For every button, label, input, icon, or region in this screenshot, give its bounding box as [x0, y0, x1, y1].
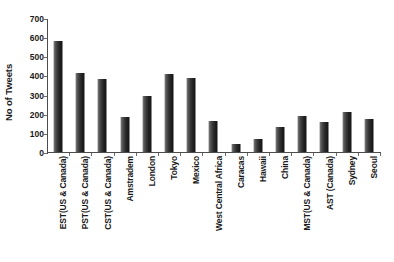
x-axis-label-text: MST(US & Canada): [302, 156, 313, 231]
bar-slot: [114, 18, 136, 152]
bar[interactable]: [276, 127, 285, 152]
bar-slot: [69, 18, 91, 152]
x-axis-label-13: AST (Canada): [314, 156, 336, 260]
bar[interactable]: [253, 139, 262, 152]
bar[interactable]: [76, 73, 85, 152]
bar-slot: [202, 18, 224, 152]
y-tick-label: 300: [16, 91, 44, 100]
clipped-caption-text: [0, 0, 394, 4]
x-axis-label-11: China: [269, 156, 291, 260]
x-axis-label-text: Caracas: [236, 156, 247, 188]
x-axis-label-text: CST(US & Canada): [103, 156, 114, 230]
x-axis-label-15: Seoul: [358, 156, 380, 260]
y-axis-title-label: No of Tweets: [4, 63, 15, 120]
x-axis-label-text: Amstradem: [125, 156, 136, 201]
y-tick-label: 100: [16, 130, 44, 139]
x-axis-label-text: China: [280, 156, 291, 179]
y-axis-tick-labels: 0100200300400500600700: [16, 14, 44, 154]
bar-slot: [358, 18, 380, 152]
x-axis-label-3: CST(US & Canada): [92, 156, 114, 260]
bar[interactable]: [54, 41, 63, 152]
bar[interactable]: [120, 117, 129, 152]
x-axis-label-text: Tokyo: [169, 156, 180, 180]
bar-slot: [136, 18, 158, 152]
bar-slot: [247, 18, 269, 152]
bar-slot: [180, 18, 202, 152]
x-axis-label-14: Sydney: [336, 156, 358, 260]
y-tick-label: 700: [16, 15, 44, 24]
bar-slot: [158, 18, 180, 152]
plot-area: [47, 19, 380, 153]
y-tick-mark: [44, 153, 47, 154]
bar-slot: [47, 18, 69, 152]
x-axis-label-7: Mexico: [180, 156, 202, 260]
x-axis-label-5: London: [136, 156, 158, 260]
bar-slot: [269, 18, 291, 152]
x-axis-label-9: Caracas: [225, 156, 247, 260]
bar[interactable]: [298, 116, 307, 152]
bars-layer: [47, 18, 380, 152]
bar[interactable]: [142, 96, 151, 152]
x-axis-label-8: West Central Africa: [203, 156, 225, 260]
x-axis-label-10: Hawaii: [247, 156, 269, 260]
y-tick-label: 500: [16, 53, 44, 62]
bar-slot: [336, 18, 358, 152]
x-axis-line: [47, 152, 381, 153]
tweets-by-timezone-bar-chart: No of Tweets 0100200300400500600700 EST(…: [0, 0, 394, 262]
bar[interactable]: [209, 121, 218, 152]
bar[interactable]: [364, 119, 373, 152]
x-axis-label-4: Amstradem: [114, 156, 136, 260]
x-axis-label-text: Sydney: [347, 156, 358, 185]
bar[interactable]: [231, 144, 240, 152]
y-tick-label: 400: [16, 72, 44, 81]
bar[interactable]: [98, 79, 107, 152]
x-tick-mark: [380, 153, 381, 156]
bar[interactable]: [187, 78, 196, 152]
bar[interactable]: [165, 74, 174, 152]
x-axis-category-labels: EST(US & Canada)PST(US & Canada)CST(US &…: [47, 156, 380, 260]
x-axis-label-text: EST(US & Canada): [58, 156, 69, 229]
bar-slot: [91, 18, 113, 152]
x-axis-label-12: MST(US & Canada): [291, 156, 313, 260]
x-axis-label-text: Mexico: [191, 156, 202, 184]
x-axis-label-text: AST (Canada): [325, 156, 336, 210]
x-axis-label-6: Tokyo: [158, 156, 180, 260]
bar-slot: [225, 18, 247, 152]
x-axis-label-2: PST(US & Canada): [69, 156, 91, 260]
x-axis-label-text: Seoul: [369, 156, 380, 178]
bar[interactable]: [320, 122, 329, 152]
bar[interactable]: [342, 112, 351, 152]
y-tick-label: 200: [16, 110, 44, 119]
y-tick-label: 0: [16, 149, 44, 158]
bar-slot: [313, 18, 335, 152]
bar-slot: [291, 18, 313, 152]
x-axis-label-text: PST(US & Canada): [80, 156, 91, 229]
y-axis-title: No of Tweets: [2, 54, 16, 130]
x-axis-label-text: Hawaii: [258, 156, 269, 182]
x-axis-label-1: EST(US & Canada): [47, 156, 69, 260]
y-tick-label: 600: [16, 34, 44, 43]
x-axis-label-text: London: [147, 156, 158, 186]
x-axis-label-text: West Central Africa: [214, 156, 225, 231]
